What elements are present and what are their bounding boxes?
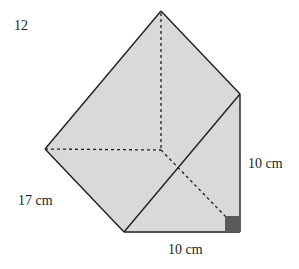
label-slant-length: 17 cm xyxy=(18,193,53,208)
prism-diagram: 12 17 cm 10 cm 10 cm xyxy=(0,0,299,269)
right-angle-marker xyxy=(225,216,240,232)
question-number: 12 xyxy=(14,18,28,33)
prism-silhouette xyxy=(45,11,240,232)
label-base: 10 cm xyxy=(168,242,203,257)
label-height: 10 cm xyxy=(248,156,283,171)
